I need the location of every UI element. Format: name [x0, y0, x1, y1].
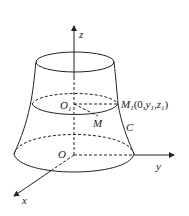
bottom-rim-front: [14, 154, 134, 172]
top-rim: [36, 52, 114, 72]
x-label: x: [21, 194, 27, 206]
M-label: M: [92, 117, 103, 129]
middle-section-front: [32, 104, 118, 115]
z-label: z: [78, 28, 84, 40]
y-label: y: [155, 160, 161, 172]
O1-label: O1: [60, 99, 71, 113]
middle-section-back: [32, 94, 118, 105]
left-generatrix: [14, 62, 36, 154]
M1-label: M1(0,y1,z1): [120, 98, 169, 112]
x-axis: [14, 170, 52, 196]
C-label: C: [126, 121, 134, 133]
surface-of-revolution-diagram: z y x O O1 M C M1(0,y1,z1): [0, 0, 189, 216]
origin-label: O: [58, 148, 66, 160]
